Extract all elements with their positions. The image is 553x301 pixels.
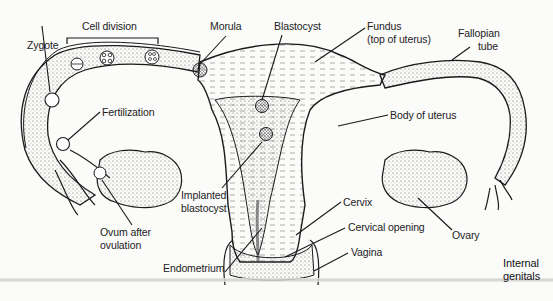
label-internal-genitals-sub: genitals <box>503 270 540 282</box>
zygote-cell <box>45 93 59 107</box>
blastocyst-cell <box>256 100 269 113</box>
label-internal-genitals: Internal <box>503 257 539 269</box>
fertilization-cell <box>57 138 70 151</box>
label-endometrium: Endometrium <box>163 262 224 274</box>
label-implanted-sub: blastocyst <box>181 202 227 214</box>
implanted-blastocyst-cell <box>260 128 273 141</box>
label-fertilization: Fertilization <box>102 106 154 118</box>
label-fundus-sub: (top of uterus) <box>367 33 431 45</box>
label-body-of-uterus: Body of uterus <box>390 109 456 121</box>
label-morula: Morula <box>210 20 242 32</box>
cell-division-bracket <box>67 38 158 44</box>
label-vagina: Vagina <box>351 246 382 258</box>
reproductive-system-illustration <box>0 0 553 301</box>
ovum-cell <box>94 167 106 179</box>
label-cell-division: Cell division <box>82 20 137 32</box>
right-ovary <box>382 150 467 208</box>
page-fold-line <box>0 278 553 282</box>
label-fundus: Fundus <box>367 20 401 32</box>
left-ovary <box>97 150 181 208</box>
label-implanted: Implanted <box>181 189 226 201</box>
label-blastocyst: Blastocyst <box>274 20 321 32</box>
label-cervical-opening: Cervical opening <box>348 221 425 233</box>
label-zygote: Zygote <box>27 39 59 51</box>
label-cervix: Cervix <box>343 196 372 208</box>
label-fallopian-sub: tube <box>478 40 498 52</box>
label-ovum-sub: ovulation <box>100 239 141 251</box>
label-ovum: Ovum after <box>100 226 151 238</box>
label-ovary: Ovary <box>452 229 480 241</box>
label-fallopian: Fallopian <box>458 27 500 39</box>
